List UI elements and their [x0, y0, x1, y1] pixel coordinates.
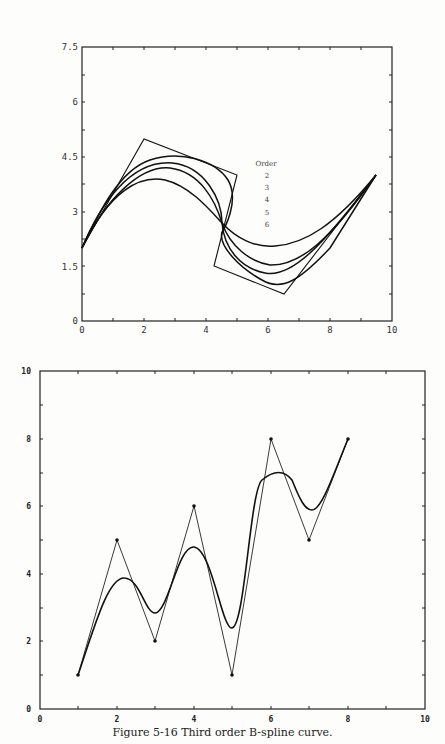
- bottom-x-label: 6: [269, 715, 274, 724]
- bspline-curve: [78, 439, 348, 675]
- figure-caption: Figure 5-16 Third order B-spline curve.: [0, 726, 445, 739]
- top-x-label: 10: [387, 325, 398, 335]
- top-y-label: 3: [73, 207, 78, 217]
- bottom-y-label: 6: [26, 502, 31, 511]
- top-y-label: 1.5: [62, 262, 78, 272]
- figure-canvas: 0 1.5 3 4.5 6 7.5 0 2 4 6 8 10 Order 2 3…: [0, 0, 445, 744]
- top-x-label: 8: [327, 325, 332, 335]
- legend-item: 4: [265, 196, 270, 204]
- bottom-ticks: [40, 371, 425, 709]
- legend-item: 3: [265, 184, 269, 192]
- bottom-x-label: 0: [38, 715, 43, 724]
- bottom-x-label: 8: [346, 715, 351, 724]
- top-y-label: 0: [73, 316, 78, 326]
- bottom-y-label: 8: [26, 435, 31, 444]
- bottom-chart: 0 2 4 6 8 10 0 2 4 6 8 10: [21, 367, 430, 724]
- legend-title: Order: [255, 160, 277, 168]
- top-legend: Order 2 3 4 5 6: [255, 160, 277, 229]
- bottom-x-label: 10: [420, 715, 430, 724]
- top-x-label: 0: [79, 325, 84, 335]
- top-chart: 0 1.5 3 4.5 6 7.5 0 2 4 6 8 10 Order 2 3…: [62, 42, 398, 335]
- legend-item: 5: [265, 209, 269, 217]
- bottom-control-polygon: [78, 439, 348, 675]
- legend-item: 2: [265, 172, 269, 180]
- top-y-label: 4.5: [62, 152, 78, 162]
- bottom-x-label: 4: [192, 715, 197, 724]
- top-x-label: 6: [265, 325, 270, 335]
- top-y-label: 6: [73, 97, 78, 107]
- bottom-y-label: 2: [26, 637, 31, 646]
- top-x-label: 2: [141, 325, 146, 335]
- top-curves: [82, 156, 376, 284]
- bottom-y-label: 0: [26, 705, 31, 714]
- bottom-y-label: 10: [21, 367, 31, 376]
- control-points: [76, 437, 350, 677]
- top-x-label: 4: [203, 325, 208, 335]
- top-y-label: 7.5: [62, 42, 78, 52]
- bottom-y-label: 4: [26, 570, 31, 579]
- bottom-x-label: 2: [115, 715, 120, 724]
- bottom-plot-frame: [40, 371, 425, 709]
- legend-item: 6: [265, 221, 270, 229]
